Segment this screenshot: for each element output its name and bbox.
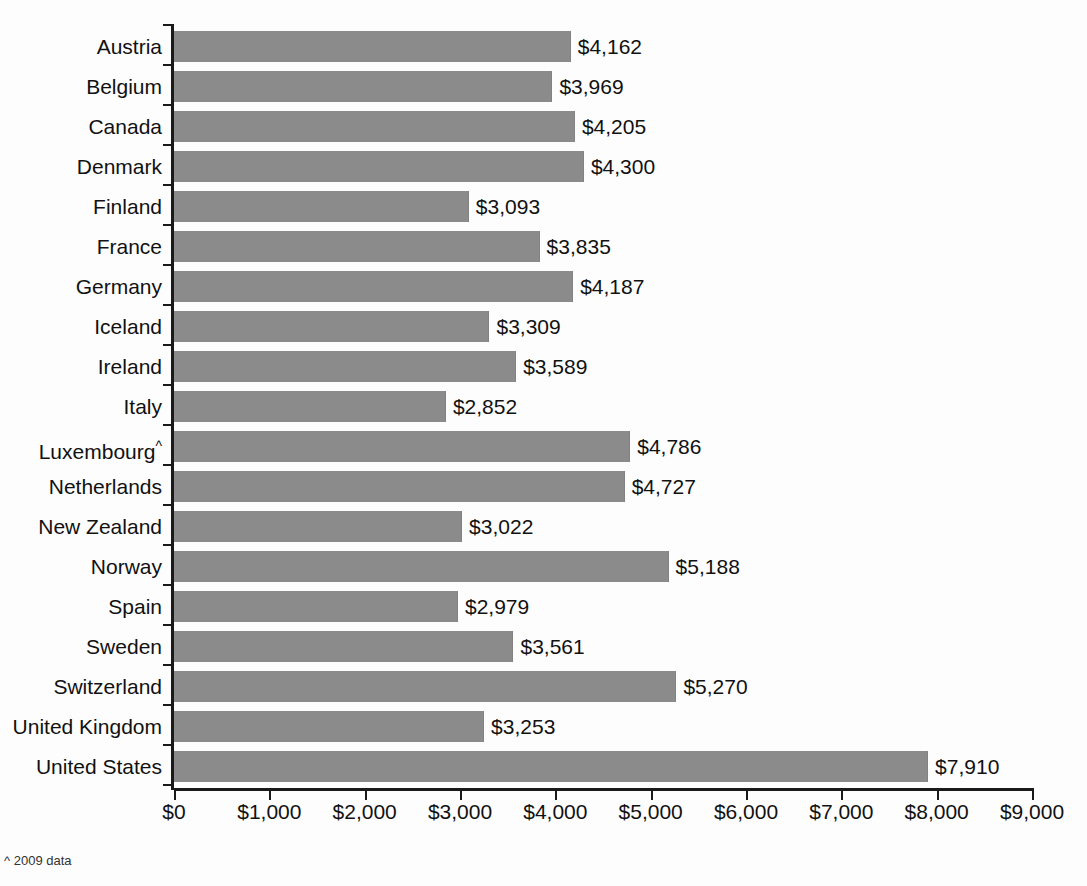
category-label-row: United States	[0, 747, 162, 787]
bar-value-label: $4,727	[625, 471, 696, 502]
bar-value-label: $4,205	[575, 111, 646, 142]
category-label: United States	[36, 751, 162, 782]
category-label-row: Luxembourg^	[0, 427, 162, 467]
category-axis-labels: AustriaBelgiumCanadaDenmarkFinlandFrance…	[0, 27, 162, 787]
y-axis-tick	[163, 224, 174, 226]
category-label: Spain	[108, 591, 162, 622]
category-label-row: Spain	[0, 587, 162, 627]
bar-row: $2,979	[174, 587, 1032, 627]
bar-value-label: $3,253	[484, 711, 555, 742]
bar-row: $3,589	[174, 347, 1032, 387]
bar-row: $5,270	[174, 667, 1032, 707]
y-axis-tick	[163, 344, 174, 346]
bar-row: $3,022	[174, 507, 1032, 547]
bar-row: $5,188	[174, 547, 1032, 587]
category-label: Germany	[76, 271, 162, 302]
y-axis-tick	[163, 624, 174, 626]
x-axis-tick-label: $3,000	[405, 800, 515, 824]
x-axis-tick-label: $5,000	[596, 800, 706, 824]
y-axis-tick	[163, 504, 174, 506]
bar-value-label: $3,589	[516, 351, 587, 382]
y-axis-tick	[163, 464, 174, 466]
bar-row: $3,835	[174, 227, 1032, 267]
category-label: Belgium	[86, 71, 162, 102]
bar	[174, 431, 630, 462]
bar	[174, 311, 489, 342]
bar-value-label: $4,300	[584, 151, 655, 182]
bar-row: $4,162	[174, 27, 1032, 67]
category-label: Austria	[97, 31, 162, 62]
bar-chart: AustriaBelgiumCanadaDenmarkFinlandFrance…	[0, 0, 1087, 886]
category-label-row: Belgium	[0, 67, 162, 107]
x-axis-tick	[365, 788, 367, 800]
bar-value-label: $4,187	[573, 271, 644, 302]
category-label: Finland	[93, 191, 162, 222]
category-label: France	[97, 231, 162, 262]
x-axis-tick	[746, 788, 748, 800]
bar	[174, 751, 928, 782]
x-axis-tick-label: $0	[119, 800, 229, 824]
bar	[174, 711, 484, 742]
category-label-row: New Zealand	[0, 507, 162, 547]
category-label: Denmark	[77, 151, 162, 182]
category-label-row: France	[0, 227, 162, 267]
bar-value-label: $3,561	[513, 631, 584, 662]
category-label: Sweden	[86, 631, 162, 662]
x-axis-tick	[174, 788, 176, 800]
category-label: Luxembourg^	[39, 431, 162, 462]
y-axis-tick	[163, 264, 174, 266]
y-axis-tick	[163, 304, 174, 306]
y-axis-tick	[163, 424, 174, 426]
y-axis-tick	[163, 664, 174, 666]
category-label-row: Switzerland	[0, 667, 162, 707]
y-axis-tick	[163, 184, 174, 186]
x-axis-tick	[651, 788, 653, 800]
category-label-row: Canada	[0, 107, 162, 147]
category-label: Italy	[123, 391, 162, 422]
bar-value-label: $3,969	[552, 71, 623, 102]
category-label: Canada	[88, 111, 162, 142]
category-label-row: Germany	[0, 267, 162, 307]
footnote: ^ 2009 data	[4, 853, 72, 868]
category-label: Switzerland	[53, 671, 162, 702]
bar-row: $3,093	[174, 187, 1032, 227]
category-label-row: Norway	[0, 547, 162, 587]
category-label: United Kingdom	[13, 711, 162, 742]
footnote-marker: ^	[155, 438, 162, 454]
bar-value-label: $3,093	[469, 191, 540, 222]
bar	[174, 351, 516, 382]
y-axis-tick	[163, 144, 174, 146]
bar	[174, 231, 540, 262]
category-label-row: Iceland	[0, 307, 162, 347]
bar-value-label: $2,852	[446, 391, 517, 422]
y-axis-tick	[163, 64, 174, 66]
bar	[174, 591, 458, 622]
bar-value-label: $3,022	[462, 511, 533, 542]
bar-value-label: $4,162	[571, 31, 642, 62]
y-axis-tick	[163, 384, 174, 386]
y-axis-tick	[163, 584, 174, 586]
x-axis-tick	[269, 788, 271, 800]
bar	[174, 471, 625, 502]
bar-value-label: $5,188	[669, 551, 740, 582]
category-label: Iceland	[94, 311, 162, 342]
x-axis-tick-label: $7,000	[786, 800, 896, 824]
x-axis-tick	[460, 788, 462, 800]
category-label-row: Finland	[0, 187, 162, 227]
bar-row: $3,969	[174, 67, 1032, 107]
x-axis-tick-label: $1,000	[214, 800, 324, 824]
bar	[174, 151, 584, 182]
bar-value-label: $3,309	[489, 311, 560, 342]
bar-row: $4,187	[174, 267, 1032, 307]
bar-row: $4,205	[174, 107, 1032, 147]
plot-area: $4,162$3,969$4,205$4,300$3,093$3,835$4,1…	[174, 27, 1032, 787]
y-axis-tick	[163, 544, 174, 546]
bar	[174, 631, 513, 662]
category-label-row: United Kingdom	[0, 707, 162, 747]
y-axis-tick	[163, 704, 174, 706]
bar-row: $4,727	[174, 467, 1032, 507]
category-label: Netherlands	[49, 471, 162, 502]
category-label-row: Netherlands	[0, 467, 162, 507]
category-label: Norway	[91, 551, 162, 582]
bar	[174, 391, 446, 422]
